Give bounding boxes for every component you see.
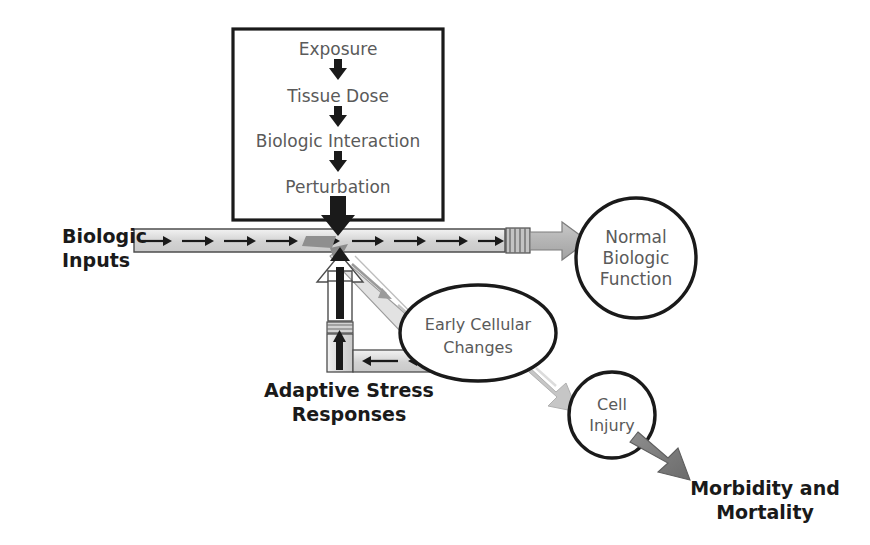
step-label-perturbation: Perturbation [285, 177, 390, 197]
adaptive-stress-label-line2: Responses [292, 403, 407, 425]
node-label-line: Cell [597, 395, 627, 414]
biologic-response-continuum-diagram: Normal Biologic Function Early Cellular … [0, 0, 870, 545]
node-label-line: Biologic [603, 248, 670, 268]
biologic-inputs-label-line2: Inputs [62, 249, 130, 271]
step-label-exposure: Exposure [299, 39, 378, 59]
step-label-biologic-interaction: Biologic Interaction [256, 131, 420, 151]
node-label-line: Injury [589, 416, 635, 435]
diagram-canvas: Normal Biologic Function Early Cellular … [0, 0, 870, 545]
normal-biologic-function-node[interactable]: Normal Biologic Function [576, 198, 696, 318]
node-label-line: Early Cellular [425, 315, 532, 334]
node-label-line: Normal [605, 227, 667, 247]
morbidity-label-line2: Mortality [716, 501, 814, 523]
band-coupling-segment [506, 228, 530, 253]
inner-black-shaft [336, 267, 344, 319]
biologic-inputs-label-line1: Biologic [62, 225, 147, 247]
adaptive-stress-label-line1: Adaptive Stress [264, 379, 434, 401]
morbidity-label-line1: Morbidity and [690, 477, 840, 499]
step-label-tissue-dose: Tissue Dose [286, 86, 389, 106]
early-cellular-changes-node[interactable]: Early Cellular Changes [400, 285, 556, 381]
node-label-line: Function [600, 269, 672, 289]
morbidity-arrow [630, 432, 690, 480]
adaptive-feedback-arrow [317, 247, 363, 333]
node-label-line: Changes [443, 338, 513, 357]
